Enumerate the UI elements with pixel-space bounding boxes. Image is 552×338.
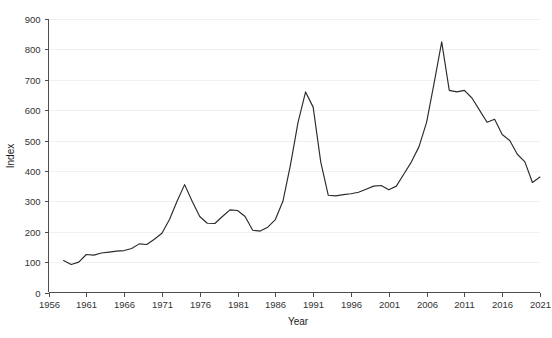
- y-tick-label: 200: [25, 227, 41, 238]
- x-tick-label: 2021: [530, 299, 551, 310]
- y-axis-title: Index: [5, 144, 16, 168]
- y-tick-label: 900: [25, 14, 41, 25]
- x-axis-title: Year: [288, 316, 309, 327]
- y-tick-label: 300: [25, 196, 41, 207]
- y-tick-label: 800: [25, 44, 41, 55]
- x-tick-label: 2001: [379, 299, 400, 310]
- chart-container: 0100200300400500600700800900 19561961196…: [0, 0, 552, 338]
- y-tick-label: 100: [25, 257, 41, 268]
- y-tick-label: 0: [35, 288, 40, 299]
- x-tick-label: 1956: [39, 299, 60, 310]
- x-tick-label: 1981: [228, 299, 249, 310]
- y-tick-label: 600: [25, 105, 41, 116]
- data-series-line: [64, 42, 540, 265]
- x-tick-label: 1976: [190, 299, 211, 310]
- x-tick-label: 2016: [492, 299, 513, 310]
- x-tick-label: 2011: [454, 299, 474, 310]
- y-tick-label: 500: [25, 136, 41, 147]
- y-tick-label: 700: [25, 75, 41, 86]
- line-chart: 0100200300400500600700800900 19561961196…: [0, 0, 552, 338]
- x-tick-label: 1971: [152, 299, 173, 310]
- x-tick-label: 1991: [303, 299, 324, 310]
- x-tick-label: 1961: [76, 299, 97, 310]
- x-tick-label: 1966: [114, 299, 135, 310]
- y-axis: 0100200300400500600700800900: [25, 14, 49, 299]
- x-tick-label: 2006: [417, 299, 438, 310]
- x-axis: 1956196119661971197619811986199119962001…: [39, 293, 551, 310]
- y-tick-label: 400: [25, 166, 41, 177]
- x-tick-label: 1996: [341, 299, 362, 310]
- x-tick-label: 1986: [265, 299, 286, 310]
